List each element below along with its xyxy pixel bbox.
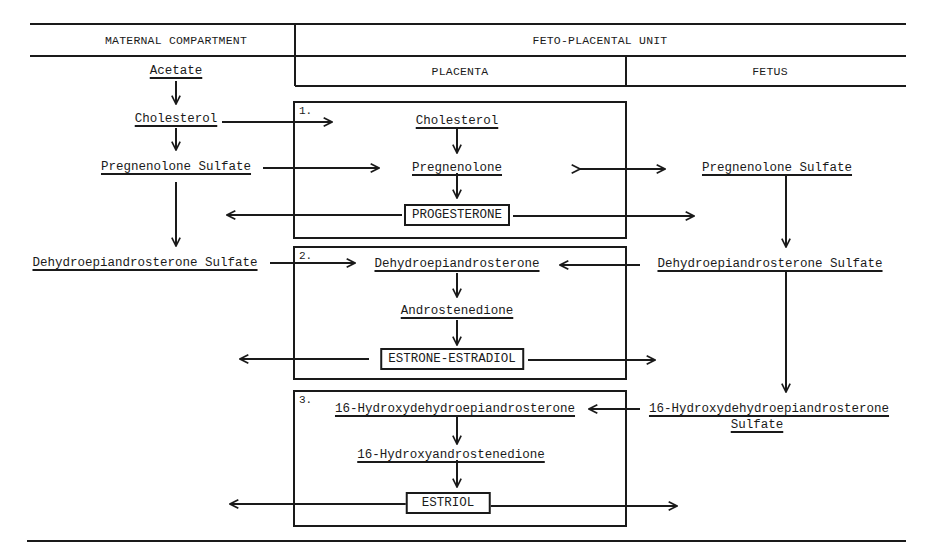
- diagram-lines: [0, 0, 934, 560]
- maternal-acetate: Acetate: [150, 64, 203, 78]
- maternal-pregnenolone-sulfate: Pregnenolone Sulfate: [101, 160, 251, 174]
- placenta-pregnenolone: Pregnenolone: [412, 161, 502, 175]
- estriol-product-box: ESTRIOL: [406, 492, 491, 514]
- maternal-dheas: Dehydroepiandrosterone Sulfate: [32, 256, 257, 270]
- placenta-dhea: Dehydroepiandrosterone: [374, 257, 539, 271]
- placenta-16-hydroxy-dhea: 16-Hydroxydehydroepiandrosterone: [335, 402, 575, 416]
- box-3-number: 3.: [299, 393, 312, 407]
- header-fetus: FETUS: [752, 65, 788, 79]
- fetus-16-hydroxy-dheas-line2: Sulfate: [731, 418, 784, 432]
- maternal-cholesterol: Cholesterol: [135, 112, 218, 126]
- header-placenta: PLACENTA: [432, 65, 489, 79]
- box-2-number: 2.: [299, 249, 312, 263]
- fetus-pregnenolone-sulfate: Pregnenolone Sulfate: [702, 161, 852, 175]
- placenta-cholesterol: Cholesterol: [416, 114, 499, 128]
- estrone-estradiol-product-box: ESTRONE-ESTRADIOL: [380, 348, 524, 370]
- fetus-16-hydroxy-dheas-line1: 16-Hydroxydehydroepiandrosterone: [649, 402, 889, 416]
- steroid-pathway-diagram: MATERNAL COMPARTMENT FETO-PLACENTAL UNIT…: [0, 0, 934, 560]
- progesterone-product-box: PROGESTERONE: [404, 204, 510, 226]
- fetus-dheas: Dehydroepiandrosterone Sulfate: [657, 257, 882, 271]
- placenta-androstenedione: Androstenedione: [401, 304, 514, 318]
- header-feto-placental-unit: FETO-PLACENTAL UNIT: [533, 34, 668, 48]
- box-1-number: 1.: [299, 104, 312, 118]
- header-maternal-compartment: MATERNAL COMPARTMENT: [105, 34, 247, 48]
- placenta-16-hydroxyandrostenedione: 16-Hydroxyandrostenedione: [357, 448, 545, 462]
